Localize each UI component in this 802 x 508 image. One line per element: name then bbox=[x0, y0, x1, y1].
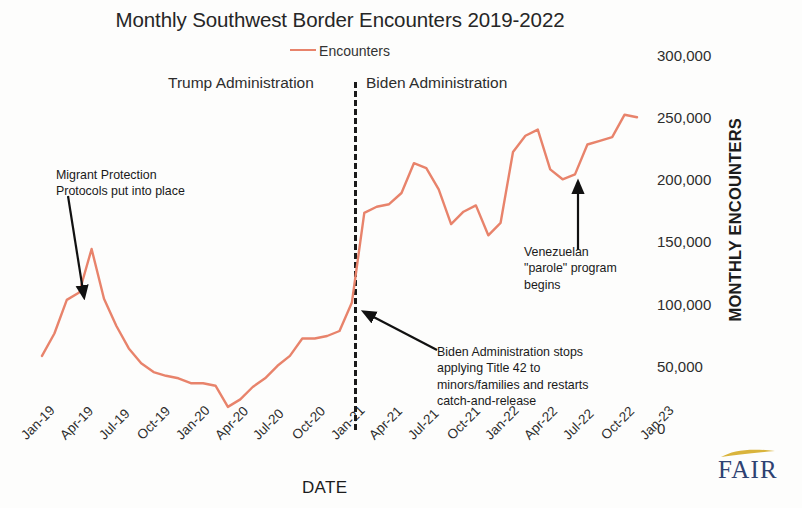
y-tick-150000: 150,000 bbox=[657, 233, 711, 250]
x-tick-apr-20: Apr-20 bbox=[212, 403, 251, 442]
legend-label-encounters: Encounters bbox=[319, 43, 390, 59]
y-axis-title: MONTHLY ENCOUNTERS bbox=[726, 118, 745, 321]
x-tick-apr-21: Apr-21 bbox=[366, 403, 405, 442]
y-tick-200000: 200,000 bbox=[657, 171, 711, 188]
chart-title: Monthly Southwest Border Encounters 2019… bbox=[0, 8, 680, 32]
fair-logo-text: FAIR bbox=[718, 456, 778, 483]
legend-line-swatch-encounters bbox=[290, 49, 316, 51]
annotation-migrant-protection-protocols: Migrant Protection Protocols put into pl… bbox=[56, 167, 185, 200]
x-tick-oct-20: Oct-20 bbox=[289, 403, 328, 442]
annotation-arrow-title-42 bbox=[364, 312, 437, 350]
x-tick-jul-19: Jul-19 bbox=[96, 406, 133, 443]
region-label-biden-administration: Biden Administration bbox=[366, 74, 507, 92]
region-label-trump-administration: Trump Administration bbox=[168, 74, 314, 92]
annotation-venezuelan-parole: Venezuelan "parole" program begins bbox=[524, 244, 617, 293]
x-tick-oct-22: Oct-22 bbox=[598, 403, 637, 442]
y-tick-100000: 100,000 bbox=[657, 296, 711, 313]
y-tick-250000: 250,000 bbox=[657, 109, 711, 126]
x-tick-jan-19: Jan-19 bbox=[18, 403, 58, 443]
x-tick-jan-21: Jan-21 bbox=[328, 403, 368, 443]
annotation-arrow-migrant-protection-protocols bbox=[68, 196, 84, 297]
x-axis-title: DATE bbox=[302, 478, 347, 498]
x-tick-jan-23: Jan-23 bbox=[637, 403, 677, 443]
x-tick-jul-21: Jul-21 bbox=[405, 406, 442, 443]
y-tick-50000: 50,000 bbox=[657, 358, 703, 375]
chart-legend: Encounters bbox=[0, 42, 680, 59]
x-tick-jul-20: Jul-20 bbox=[250, 406, 287, 443]
x-tick-jul-22: Jul-22 bbox=[560, 406, 597, 443]
annotation-title-42: Biden Administration stops applying Titl… bbox=[437, 344, 589, 410]
x-tick-apr-19: Apr-19 bbox=[57, 403, 96, 442]
x-tick-jan-20: Jan-20 bbox=[173, 403, 213, 443]
fair-logo: FAIR bbox=[706, 448, 790, 484]
administration-divider-line bbox=[354, 82, 357, 430]
chart-page: Monthly Southwest Border Encounters 2019… bbox=[0, 0, 802, 508]
x-tick-oct-19: Oct-19 bbox=[134, 403, 173, 442]
y-tick-300000: 300,000 bbox=[657, 47, 711, 64]
